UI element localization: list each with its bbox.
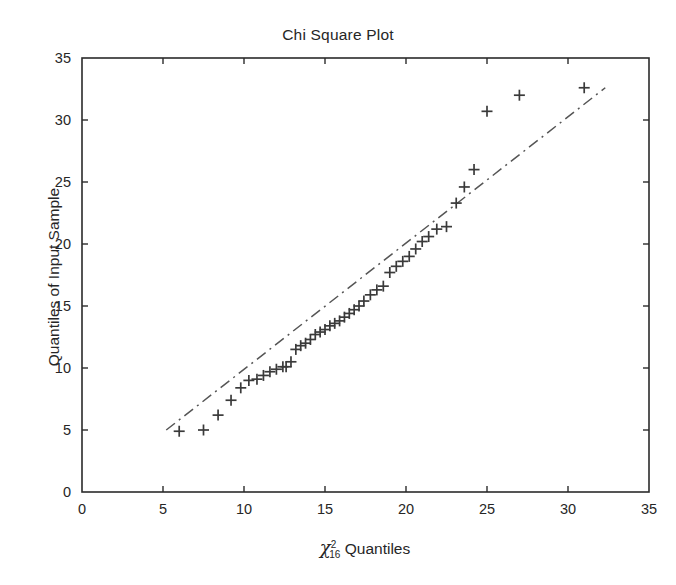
data-point-marker <box>315 327 326 338</box>
y-tick-label: 35 <box>55 50 71 66</box>
data-point-marker <box>469 164 480 175</box>
data-point-marker <box>391 261 402 272</box>
data-point-marker <box>329 318 340 329</box>
data-point-marker <box>285 356 296 367</box>
x-tick-label: 30 <box>560 501 576 517</box>
data-point-marker <box>226 395 237 406</box>
data-point-marker <box>441 221 452 232</box>
y-tick-label: 5 <box>63 422 71 438</box>
y-tick-label: 0 <box>63 484 71 500</box>
data-point-marker <box>423 231 434 242</box>
chi-square-plot-figure: Chi Square Plot 051015202530350510152025… <box>0 0 676 585</box>
y-tick-label: 30 <box>55 112 71 128</box>
data-point-marker <box>397 256 408 267</box>
data-point-marker <box>243 375 254 386</box>
chi-subscript: 16 <box>329 549 340 560</box>
axes-group <box>82 58 649 492</box>
x-axis-label: χ216 Quantiles <box>0 537 676 560</box>
plot-box <box>82 58 649 492</box>
x-tick-label: 15 <box>317 501 333 517</box>
reference-line-group <box>166 88 605 430</box>
x-tick-label: 25 <box>479 501 495 517</box>
data-point-marker <box>384 267 395 278</box>
data-point-marker <box>365 289 376 300</box>
data-point-marker <box>579 82 590 93</box>
x-tick-label: 20 <box>398 501 414 517</box>
x-axis-label-text: Quantiles <box>340 540 410 557</box>
data-point-marker <box>459 181 470 192</box>
data-point-marker <box>213 410 224 421</box>
data-point-marker <box>174 426 185 437</box>
y-axis-label: Quantiles of Input Sample <box>45 137 63 417</box>
data-point-marker <box>271 364 282 375</box>
data-point-marker <box>235 382 246 393</box>
data-point-marker <box>410 243 421 254</box>
x-tick-label: 10 <box>236 501 252 517</box>
plot-canvas: 0510152025303505101520253035 <box>0 0 676 585</box>
data-point-marker <box>431 224 442 235</box>
data-point-marker <box>514 90 525 101</box>
data-points-group <box>174 82 590 436</box>
data-point-marker <box>417 236 428 247</box>
x-tick-label: 0 <box>78 501 86 517</box>
tick-labels-group: 0510152025303505101520253035 <box>55 50 657 517</box>
x-tick-label: 5 <box>159 501 167 517</box>
data-point-marker <box>358 296 369 307</box>
data-point-marker <box>482 106 493 117</box>
data-point-marker <box>310 329 321 340</box>
x-tick-label: 35 <box>641 501 657 517</box>
reference-line <box>166 88 605 430</box>
data-point-marker <box>198 425 209 436</box>
data-point-marker <box>404 251 415 262</box>
